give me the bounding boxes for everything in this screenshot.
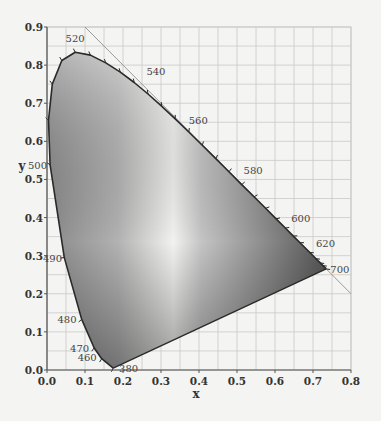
locus-tick: [147, 90, 148, 94]
x-axis-title: x: [192, 387, 200, 401]
chromaticity-chart: 0.00.10.20.30.40.50.60.70.80.00.10.20.30…: [0, 0, 381, 421]
wavelength-label-480: 480: [57, 314, 76, 325]
wavelength-label-700: 700: [330, 264, 349, 275]
x-tick-label: 0.0: [38, 375, 56, 387]
wavelength-label-560: 560: [189, 115, 208, 126]
locus-tick: [276, 218, 280, 219]
y-tick-label: 0.1: [25, 326, 43, 338]
locus-tick: [216, 155, 218, 159]
locus-tick: [79, 319, 82, 322]
wavelength-label-580: 580: [244, 165, 263, 176]
y-tick-label: 0.5: [25, 173, 43, 185]
locus-tick: [229, 169, 231, 172]
locus-tick: [323, 266, 327, 267]
gamut-shading: [49, 52, 327, 368]
locus-tick: [50, 81, 52, 84]
wavelength-label-380: 380: [119, 363, 138, 374]
y-tick-label: 0.9: [25, 21, 43, 33]
x-tick-label: 0.5: [228, 375, 246, 387]
x-tick-label: 0.4: [190, 375, 208, 387]
locus-tick: [189, 128, 190, 132]
wavelength-label-520: 520: [66, 33, 85, 44]
y-tick-label: 0.4: [25, 212, 43, 224]
x-tick-label: 0.1: [76, 375, 94, 387]
x-tick-label: 0.6: [266, 375, 284, 387]
y-tick-label: 0.8: [25, 59, 43, 71]
wavelength-label-540: 540: [146, 66, 165, 77]
locus-tick: [320, 263, 324, 264]
locus-tick: [242, 182, 245, 185]
locus-tick: [60, 57, 62, 60]
y-tick-label: 0.0: [25, 364, 43, 376]
locus-tick: [285, 227, 289, 228]
wavelength-label-500: 500: [28, 160, 47, 171]
wavelength-label-490: 490: [43, 253, 62, 264]
locus-tick: [202, 141, 203, 145]
wavelength-label-600: 600: [291, 213, 310, 224]
gamut-fill: [49, 52, 327, 368]
locus-tick: [73, 49, 75, 53]
x-tick-label: 0.8: [342, 375, 360, 387]
x-tick-label: 0.3: [152, 375, 170, 387]
y-tick-label: 0.3: [25, 250, 43, 262]
y-axis-title: y: [18, 159, 27, 173]
x-tick-label: 0.7: [304, 375, 322, 387]
locus-tick: [266, 207, 270, 208]
locus-tick: [100, 359, 102, 362]
y-tick-label: 0.6: [25, 135, 43, 147]
x-tick-label: 0.2: [114, 375, 132, 387]
wavelength-label-460: 460: [78, 352, 97, 363]
y-tick-label: 0.7: [25, 97, 43, 109]
y-tick-label: 0.2: [25, 288, 43, 300]
wavelength-label-620: 620: [316, 238, 335, 249]
